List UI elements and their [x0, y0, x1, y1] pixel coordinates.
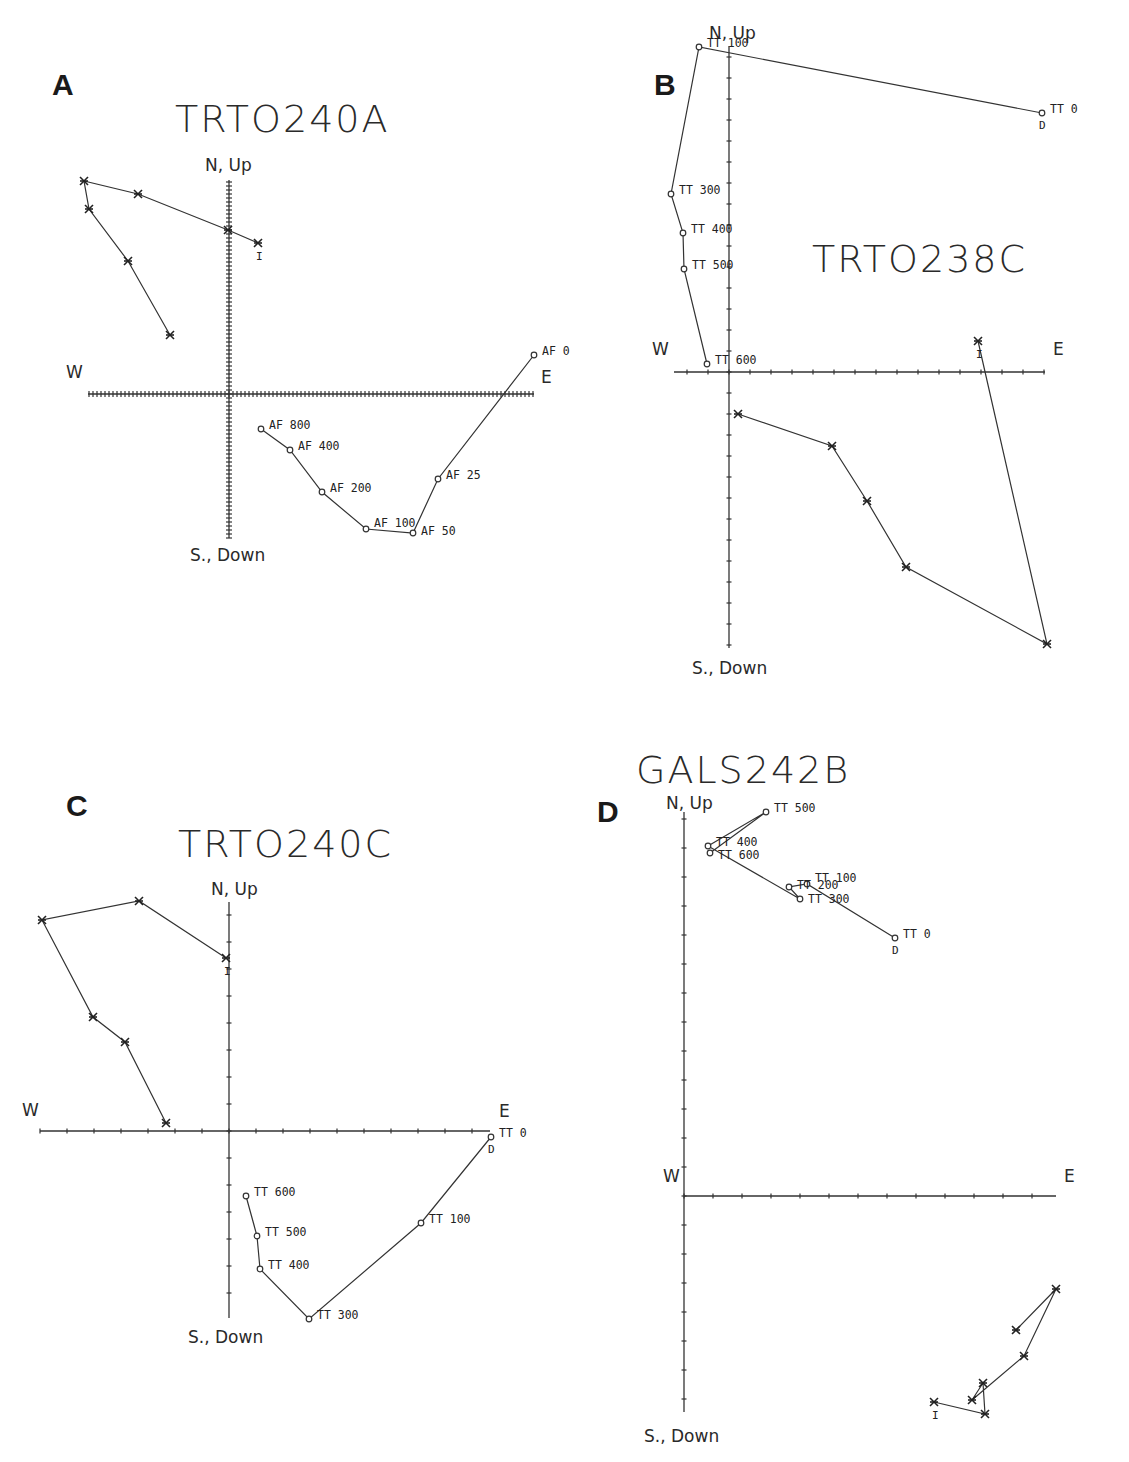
circle-marker [531, 352, 537, 358]
end-marker-d: D [1039, 119, 1046, 132]
horizontal-projection-path [708, 812, 895, 938]
circle-marker [254, 1233, 260, 1239]
circle-marker [707, 850, 713, 856]
circle-marker [681, 266, 687, 272]
circle-marker [696, 44, 702, 50]
step-label: TT 600 [254, 1185, 296, 1199]
end-marker-d: D [488, 1143, 495, 1156]
step-label: TT 400 [691, 222, 733, 236]
north-up-label: N, Up [211, 879, 258, 899]
east-label: E [499, 1101, 510, 1121]
sample-title: TRTO240A [175, 97, 390, 141]
west-label: W [22, 1100, 39, 1120]
circle-marker [258, 426, 264, 432]
north-up-label: N, Up [205, 155, 252, 175]
panel-letter: A [52, 68, 74, 101]
step-label: TT 0 [903, 927, 931, 941]
sample-title: TRTO238C [812, 237, 1027, 281]
step-label: AF 400 [298, 439, 340, 453]
step-label: TT 300 [317, 1308, 359, 1322]
circle-marker [410, 530, 416, 536]
step-label: TT 400 [716, 835, 758, 849]
step-label: TT 500 [774, 801, 816, 815]
step-label: AF 50 [421, 524, 456, 538]
west-label: W [652, 339, 669, 359]
step-label: TT 200 [797, 878, 839, 892]
circle-marker [257, 1266, 263, 1272]
step-label: TT 100 [429, 1212, 471, 1226]
west-label: W [66, 362, 83, 382]
horizontal-projection-path [671, 47, 1042, 364]
step-label: TT 100 [707, 36, 749, 50]
sample-title: TRTO240C [178, 822, 393, 866]
step-label: AF 800 [269, 418, 311, 432]
south-down-label: S., Down [190, 545, 265, 565]
step-label: TT 500 [692, 258, 734, 272]
start-marker-i: I [932, 1409, 939, 1422]
end-marker-d: D [892, 944, 899, 957]
step-label: AF 200 [330, 481, 372, 495]
start-marker-i: I [256, 250, 263, 263]
step-label: TT 300 [808, 892, 850, 906]
circle-marker [1039, 110, 1045, 116]
circle-marker [786, 884, 792, 890]
step-label: TT 400 [268, 1258, 310, 1272]
panel-letter: D [597, 795, 619, 828]
sample-title: GALS242B [636, 748, 850, 792]
step-label: TT 600 [715, 353, 757, 367]
east-label: E [1053, 339, 1064, 359]
vertical-projection-path [42, 901, 226, 1123]
circle-marker [892, 935, 898, 941]
step-label: AF 0 [542, 344, 570, 358]
circle-marker [306, 1316, 312, 1322]
step-label: TT 300 [679, 183, 721, 197]
south-down-label: S., Down [188, 1327, 263, 1347]
circle-marker [668, 191, 674, 197]
vertical-projection-path [738, 341, 1047, 644]
step-label: AF 25 [446, 468, 481, 482]
panel-b: BTRTO238CN, UpS., DownWETT 0TT 100TT 300… [652, 23, 1078, 678]
panel-c: CTRTO240CN, UpS., DownWETT 0TT 100TT 300… [22, 789, 527, 1347]
panel-letter: C [66, 789, 88, 822]
step-label: TT 0 [1050, 102, 1078, 116]
circle-marker [363, 526, 369, 532]
circle-marker [435, 476, 441, 482]
south-down-label: S., Down [692, 658, 767, 678]
circle-marker [797, 896, 803, 902]
start-marker-i: I [224, 965, 231, 978]
step-label: TT 0 [499, 1126, 527, 1140]
circle-marker [704, 361, 710, 367]
step-label: TT 600 [718, 848, 760, 862]
circle-marker [243, 1193, 249, 1199]
panel-d: DGALS242BN, UpS., DownWETT 0TT 100TT 200… [597, 748, 1075, 1446]
panel-letter: B [654, 68, 676, 101]
figure-canvas: ATRTO240AN, UpS., DownWEAF 0AF 25AF 50AF… [0, 0, 1129, 1462]
circle-marker [705, 843, 711, 849]
circle-marker [763, 809, 769, 815]
panel-a: ATRTO240AN, UpS., DownWEAF 0AF 25AF 50AF… [52, 68, 570, 565]
circle-marker [488, 1134, 494, 1140]
step-label: AF 100 [374, 516, 416, 530]
south-down-label: S., Down [644, 1426, 719, 1446]
circle-marker [319, 489, 325, 495]
vertical-projection-path [934, 1289, 1056, 1414]
circle-marker [287, 447, 293, 453]
start-marker-i: I [976, 348, 983, 361]
step-label: TT 500 [265, 1225, 307, 1239]
east-label: E [1064, 1166, 1075, 1186]
east-label: E [541, 367, 552, 387]
circle-marker [418, 1220, 424, 1226]
north-up-label: N, Up [666, 793, 713, 813]
circle-marker [680, 230, 686, 236]
west-label: W [663, 1166, 680, 1186]
